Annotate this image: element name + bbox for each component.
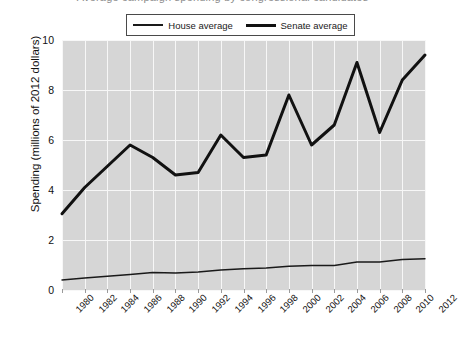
legend-label-senate: Senate average [281, 20, 348, 31]
y-tick-label: 4 [48, 184, 54, 196]
x-tick-mark [107, 289, 108, 293]
y-tick-label: 0 [48, 284, 54, 296]
x-tick-label: 1994 [232, 292, 255, 315]
x-tick-label: 1986 [141, 292, 164, 315]
series-line-house-average [62, 259, 425, 280]
x-tick-mark [175, 289, 176, 293]
x-tick-mark [402, 289, 403, 293]
x-tick-mark [425, 289, 426, 293]
x-tick-mark [357, 289, 358, 293]
x-tick-label: 1984 [119, 292, 142, 315]
x-tick-label: 1998 [277, 292, 300, 315]
y-tick-label: 8 [48, 84, 54, 96]
x-tick-mark [130, 289, 131, 293]
series-lines [62, 40, 425, 290]
legend-line-house-icon [133, 24, 163, 25]
x-tick-label: 1988 [164, 292, 187, 315]
y-axis-ticks: 0246810 [0, 40, 58, 290]
x-tick-label: 1980 [73, 292, 96, 315]
plot-area [62, 40, 425, 290]
x-tick-label: 2008 [391, 292, 414, 315]
x-tick-label: 1996 [255, 292, 278, 315]
x-tick-label: 2000 [300, 292, 323, 315]
y-tick-label: 2 [48, 234, 54, 246]
x-tick-label: 2004 [345, 292, 368, 315]
legend-line-senate-icon [246, 24, 276, 27]
x-tick-mark [62, 289, 63, 293]
x-tick-label: 2012 [436, 292, 459, 315]
y-tick-label: 10 [42, 34, 54, 46]
x-tick-label: 1992 [209, 292, 232, 315]
x-tick-mark [244, 289, 245, 293]
x-tick-mark [312, 289, 313, 293]
x-tick-label: 1982 [96, 292, 119, 315]
x-tick-label: 1990 [187, 292, 210, 315]
x-tick-mark [221, 289, 222, 293]
legend-entry-senate[interactable]: Senate average [246, 20, 348, 31]
x-tick-label: 2010 [414, 292, 437, 315]
x-tick-label: 2002 [323, 292, 346, 315]
x-tick-mark [198, 289, 199, 293]
legend-label-house: House average [168, 20, 232, 31]
x-tick-mark [334, 289, 335, 293]
x-tick-mark [153, 289, 154, 293]
chart-legend: House average Senate average [126, 14, 355, 36]
y-tick-label: 6 [48, 134, 54, 146]
x-tick-mark [289, 289, 290, 293]
x-tick-mark [85, 289, 86, 293]
legend-entry-house[interactable]: House average [133, 20, 232, 31]
x-axis-ticks: 1980198219841986198819901992199419961998… [62, 292, 425, 338]
x-tick-label: 2006 [368, 292, 391, 315]
x-tick-mark [266, 289, 267, 293]
x-tick-mark [380, 289, 381, 293]
series-line-senate-average [62, 55, 425, 214]
chart-title: Average campaign spending by congression… [0, 0, 445, 3]
gridline-vertical [425, 40, 426, 290]
